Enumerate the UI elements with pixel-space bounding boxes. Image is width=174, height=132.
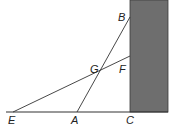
label-b: B <box>118 11 125 23</box>
wall <box>130 0 168 112</box>
label-c: C <box>126 114 134 126</box>
label-a: A <box>70 114 78 126</box>
label-g: G <box>90 63 99 75</box>
segment-ef <box>13 56 130 112</box>
geometry-diagram: B G F E A C <box>0 0 174 132</box>
label-f: F <box>119 63 127 75</box>
label-e: E <box>8 114 16 126</box>
